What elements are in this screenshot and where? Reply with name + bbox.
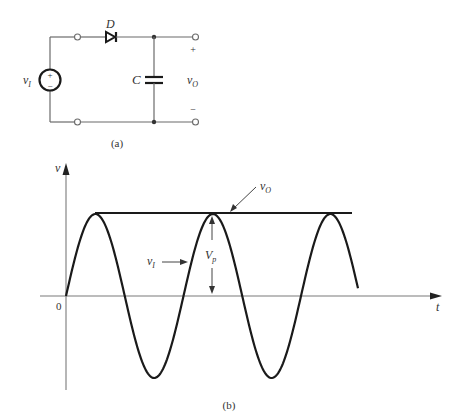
terminal-top-left (75, 34, 81, 40)
output-label: vO (187, 73, 198, 89)
vi-pointer-arrow-icon (180, 259, 188, 265)
vo-pointer-arrow-icon (230, 204, 237, 212)
source-minus-sign: − (47, 81, 52, 91)
diagram-canvas: + − vI D C vO + − (a) v t 0 (0, 0, 459, 415)
vp-label: Vp (205, 248, 216, 264)
y-axis-arrow-icon (63, 163, 70, 175)
output-plus-sign: + (190, 44, 196, 55)
x-axis-arrow-icon (430, 293, 442, 300)
y-axis-label: v (55, 161, 61, 175)
diode-label: D (105, 17, 115, 31)
voltage-source-icon: + − (40, 70, 61, 92)
node-bottom (152, 120, 156, 124)
caption-b: (b) (223, 399, 236, 412)
terminal-top-right (193, 34, 199, 40)
vi-label: vI (147, 254, 155, 270)
source-label: vI (23, 73, 31, 89)
circuit-schematic: + − vI D C vO + − (a) (23, 17, 199, 150)
output-minus-sign: − (190, 104, 196, 115)
vp-arrow-up-icon (209, 216, 215, 224)
capacitor-label: C (132, 72, 141, 87)
capacitor-icon (145, 77, 163, 83)
source-plus-sign: + (47, 70, 52, 80)
vo-label: vO (260, 179, 271, 195)
terminal-bottom-left (75, 119, 81, 125)
terminal-bottom-right (193, 119, 199, 125)
diode-icon (106, 32, 116, 42)
vp-arrow-down-icon (209, 286, 215, 294)
x-axis-label: t (436, 300, 440, 314)
caption-a: (a) (111, 137, 124, 150)
waveform-graph: v t 0 vO vI Vp (b) (40, 161, 442, 412)
origin-label: 0 (56, 300, 62, 312)
vo-pointer-line (233, 187, 256, 209)
